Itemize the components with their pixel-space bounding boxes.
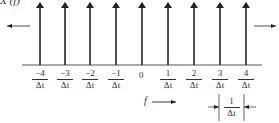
impulse-group [40, 3, 246, 65]
tick-label-zero: 0 [139, 70, 144, 80]
tick-denominator: Δt [29, 80, 51, 90]
tick-label: 1Δt [157, 69, 179, 90]
tick-numerator: −1 [108, 69, 124, 80]
tick-denominator: Δt [209, 80, 231, 90]
tick-label: −4Δt [29, 69, 51, 90]
tick-numerator: −3 [57, 69, 73, 80]
tick-label: 2Δt [183, 69, 205, 90]
spacing-label-denominator: Δt [221, 108, 243, 118]
tick-denominator: Δt [235, 80, 257, 90]
tick-denominator: Δt [79, 80, 101, 90]
tick-numerator: 4 [238, 69, 254, 80]
tick-label: −3Δt [54, 69, 76, 90]
impulse-train-diagram: X (f) −4Δt−3Δt−2Δt−1Δt01Δt2Δt3Δt4Δt f 1 … [0, 0, 279, 123]
tick-denominator: Δt [157, 80, 179, 90]
tick-numerator: 1 [160, 69, 176, 80]
tick-label: 3Δt [209, 69, 231, 90]
tick-denominator: Δt [105, 80, 127, 90]
tick-numerator: −4 [32, 69, 48, 80]
spacing-label: 1 Δt [221, 97, 243, 118]
tick-numerator: 2 [186, 69, 202, 80]
tick-label: 4Δt [235, 69, 257, 90]
axis-variable-label: f [144, 95, 147, 106]
tick-denominator: Δt [183, 80, 205, 90]
tick-numerator: 3 [212, 69, 228, 80]
tick-label: −1Δt [105, 69, 127, 90]
tick-numerator: −2 [82, 69, 98, 80]
plot-title: X (f) [0, 0, 20, 6]
spacing-label-numerator: 1 [224, 97, 240, 108]
tick-denominator: Δt [54, 80, 76, 90]
tick-label: −2Δt [79, 69, 101, 90]
